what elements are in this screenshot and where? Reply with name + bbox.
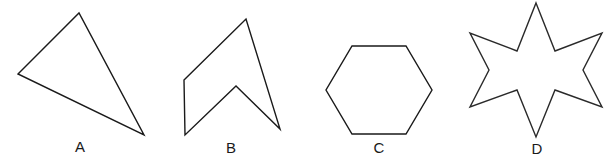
shape-label-c: C bbox=[374, 140, 385, 155]
shapes-layer bbox=[0, 0, 616, 161]
shape-label-a: A bbox=[75, 139, 85, 154]
shape-eight-pointed-star-d bbox=[470, 3, 602, 137]
shape-triangle-a bbox=[18, 13, 144, 135]
shape-hexagon-c bbox=[326, 46, 432, 134]
shape-label-b: B bbox=[226, 140, 236, 155]
shape-concave-pentagon-b bbox=[184, 19, 280, 135]
shape-label-d: D bbox=[532, 141, 543, 156]
figure-canvas: A B C D bbox=[0, 0, 616, 161]
